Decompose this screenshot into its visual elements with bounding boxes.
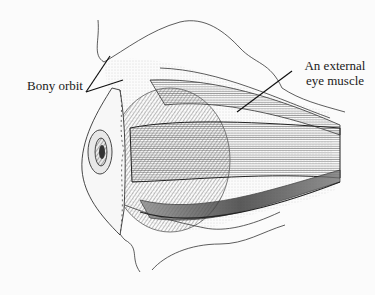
lateral-rectus-muscle — [130, 122, 340, 182]
label-external-eye-muscle: An external eye muscle — [290, 58, 375, 88]
label-external-eye-muscle-line2: eye muscle — [290, 73, 375, 88]
label-bony-orbit: Bony orbit — [27, 78, 83, 93]
pupil — [99, 145, 105, 159]
label-external-eye-muscle-line1: An external — [290, 58, 375, 73]
eye-anatomy-illustration — [0, 0, 375, 295]
